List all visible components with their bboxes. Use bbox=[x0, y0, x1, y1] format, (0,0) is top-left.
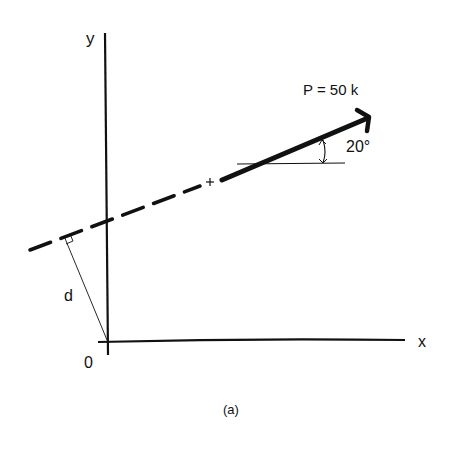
figure-caption: (a) bbox=[223, 402, 239, 417]
angle-label: 20° bbox=[346, 138, 370, 155]
force-label: P = 50 k bbox=[303, 81, 359, 98]
angle-reference-line bbox=[237, 163, 345, 164]
angle-arc-arrow-bottom bbox=[319, 159, 327, 163]
y-axis-label: y bbox=[86, 29, 95, 48]
x-axis bbox=[98, 339, 405, 342]
point-marker bbox=[206, 178, 214, 186]
angle-arc bbox=[323, 140, 325, 163]
x-axis-label: x bbox=[418, 333, 426, 350]
origin-label: 0 bbox=[84, 354, 93, 371]
force-diagram: y x 0 P = 50 k 20° d (a) bbox=[0, 0, 449, 451]
line-of-action-dashed bbox=[30, 186, 200, 250]
y-axis bbox=[105, 33, 108, 355]
distance-label: d bbox=[64, 287, 73, 304]
